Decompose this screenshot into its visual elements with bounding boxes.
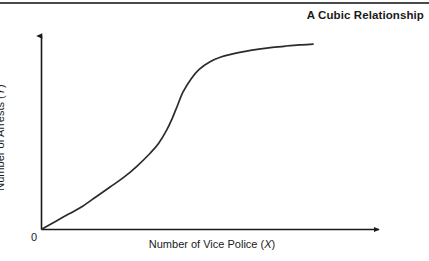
figure-container: A Cubic Relationship Number of Arrests (… [0,0,429,261]
cubic-curve [42,44,313,229]
y-axis-label-text: Number of Arrests ( [0,95,6,190]
y-axis-label: Number of Arrests (Y) [0,58,6,218]
x-axis-label-text: Number of Vice Police ( [149,238,264,250]
x-axis-symbol: X [264,238,271,250]
y-axis-symbol: Y [0,88,6,95]
origin-tick-label: 0 [31,231,37,243]
x-axis-label: Number of Vice Police (X) [41,238,383,250]
plot-area [0,0,429,261]
y-axis-label-suffix: ) [0,84,6,88]
x-axis-label-suffix: ) [272,238,276,250]
